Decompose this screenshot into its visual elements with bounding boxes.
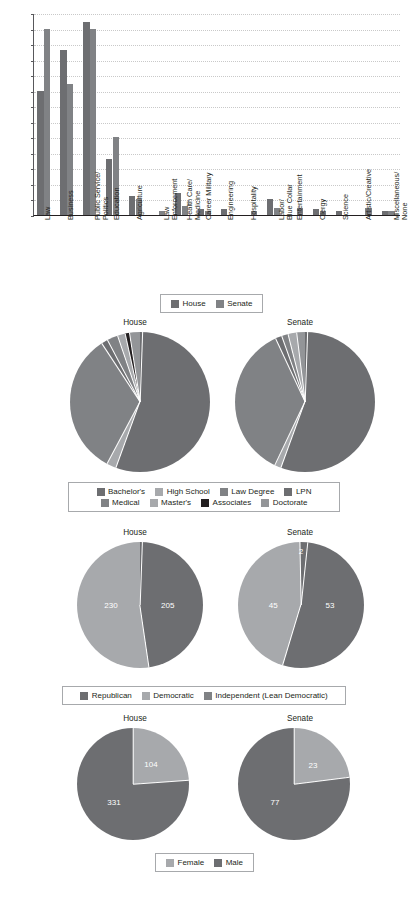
pie-data-label: 331: [107, 797, 120, 806]
legend-swatch-icon: [166, 859, 174, 867]
legend-swatch-icon: [214, 859, 222, 867]
pie-data-label: 230: [104, 601, 117, 610]
legend-chamber-item[interactable]: House: [171, 299, 206, 308]
x-axis-label-2: Public Service/Politics: [94, 172, 111, 220]
legend-education-item[interactable]: Medical: [101, 498, 140, 507]
pie-slice-divider: [107, 402, 141, 465]
pie-slice-divider: [274, 402, 305, 466]
x-axis-label-8: Engineering: [227, 181, 235, 220]
legend-label: Master's: [161, 498, 191, 507]
y-axis-tick-mark: [31, 200, 34, 201]
pie-slice-divider: [282, 605, 302, 666]
legend-label: Female: [178, 858, 205, 867]
y-axis-tick-mark: [31, 107, 34, 108]
legend-swatch-icon: [220, 488, 228, 496]
x-axis-label-7: Career Military: [205, 173, 213, 220]
education-senate-title: Senate: [250, 318, 350, 327]
education-house-pie: [70, 332, 210, 472]
legend-label: LPN: [296, 487, 312, 496]
pie-data-label: 23: [309, 760, 318, 769]
legend-education-item[interactable]: High School: [155, 487, 210, 496]
x-axis-label-10: Labor/Blue Collar: [278, 184, 295, 220]
legend-label: Law Degree: [231, 487, 274, 496]
legend-label: Senate: [227, 299, 252, 308]
gender-house-title: House: [85, 714, 185, 723]
legend-party: RepublicanDemocraticIndependent (Lean De…: [62, 686, 346, 705]
x-axis-label-3: Education: [113, 188, 121, 220]
party-house-title: House: [85, 528, 185, 537]
y-axis-tick-mark: [31, 61, 34, 62]
x-axis-label-0: Law: [44, 207, 52, 220]
legend-education-item[interactable]: Master's: [150, 498, 191, 507]
bar-house-10: [267, 199, 273, 215]
y-axis-tick-mark: [31, 76, 34, 77]
legend-label: Doctorate: [273, 498, 308, 507]
bar-plot-area: 65%60%55%50%45%40%35%30%25%20%15%10%5%0%: [33, 14, 400, 216]
y-axis-tick-mark: [31, 92, 34, 93]
legend-swatch-icon: [155, 488, 163, 496]
pie-data-label: 45: [269, 601, 278, 610]
pie-slice-divider: [304, 332, 308, 402]
x-axis-label-9: Hospitality: [250, 186, 258, 220]
pie-slice-divider: [133, 779, 189, 784]
x-axis-label-12: Clergy: [319, 199, 327, 220]
pie-slice-divider: [280, 402, 305, 468]
legend-swatch-icon: [284, 488, 292, 496]
legend-swatch-icon: [80, 692, 88, 700]
education-house-title: House: [85, 318, 185, 327]
gender-senate-title: Senate: [250, 714, 350, 723]
pie-slice-divider: [139, 542, 143, 605]
education-senate-pie: [235, 332, 375, 472]
bar-chart-title: [6, 0, 401, 1]
pie-data-label: 77: [271, 797, 280, 806]
x-axis-label-5: LawEnforcement: [163, 179, 180, 220]
bar-house-0: [37, 91, 43, 215]
legend-chamber: HouseSenate: [160, 294, 263, 313]
x-axis-label-4: Agriculture: [136, 185, 144, 220]
bar-senate-0: [44, 29, 50, 215]
legend-label: House: [183, 299, 206, 308]
legend-swatch-icon: [97, 488, 105, 496]
legend-chamber-item[interactable]: Senate: [216, 299, 253, 308]
legend-education: Bachelor'sHigh SchoolLaw DegreeLPNMedica…: [68, 482, 340, 512]
y-axis-tick-mark: [31, 14, 34, 15]
y-axis-tick-mark: [31, 30, 34, 31]
legend-swatch-icon: [216, 300, 224, 308]
pie-data-label: 205: [161, 601, 174, 610]
party-senate-pie: 53452: [238, 542, 364, 668]
legend-label: Associates: [213, 498, 252, 507]
party-house-pie: 205230: [77, 542, 203, 668]
y-axis-tick-mark: [31, 169, 34, 170]
legend-gender-item[interactable]: Male: [214, 858, 243, 867]
gridline: [34, 14, 400, 15]
legend-label: Independent (Lean Democratic): [215, 691, 328, 700]
occupation-bar-chart: 65%60%55%50%45%40%35%30%25%20%15%10%5%0%…: [0, 0, 407, 290]
pie-slice-divider: [294, 776, 350, 784]
bar-house-15: [382, 211, 388, 215]
legend-label: Male: [226, 858, 243, 867]
x-axis-label-15: Miscellaneous/None: [393, 172, 409, 220]
legend-education-item[interactable]: Bachelor's: [97, 487, 146, 496]
legend-education-item[interactable]: LPN: [284, 487, 311, 496]
x-axis-label-11: Entertainment: [296, 175, 304, 220]
legend-swatch-icon: [101, 499, 109, 507]
pie-slice-divider: [139, 332, 143, 402]
legend-party-item[interactable]: Independent (Lean Democratic): [204, 691, 328, 700]
pie-slice-divider: [132, 728, 133, 784]
bar-house-2: [83, 22, 89, 215]
y-axis-tick-mark: [31, 45, 34, 46]
legend-education-item[interactable]: Associates: [201, 498, 251, 507]
legend-education-item[interactable]: Doctorate: [261, 498, 307, 507]
pie-data-label: 53: [326, 601, 335, 610]
party-senate-title: Senate: [250, 528, 350, 537]
legend-gender: FemaleMale: [155, 853, 254, 872]
legend-swatch-icon: [204, 692, 212, 700]
legend-swatch-icon: [171, 300, 179, 308]
legend-party-item[interactable]: Democratic: [142, 691, 194, 700]
legend-gender-item[interactable]: Female: [166, 858, 204, 867]
y-axis-tick-mark: [31, 216, 34, 217]
legend-party-item[interactable]: Republican: [80, 691, 132, 700]
legend-education-item[interactable]: Law Degree: [220, 487, 275, 496]
pie-data-label: 2: [299, 546, 303, 555]
legend-label: Bachelor's: [108, 487, 145, 496]
